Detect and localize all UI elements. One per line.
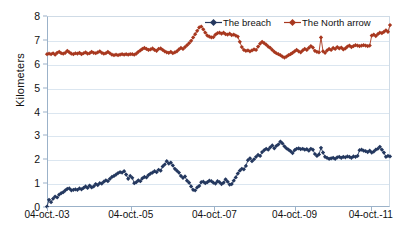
data-point-marker (193, 32, 197, 36)
legend-item-the-north-arrow[interactable]: The North arrow (284, 18, 371, 28)
x-tick-mark (214, 207, 215, 211)
data-point-marker (234, 175, 238, 179)
data-point-marker (124, 172, 128, 176)
y-tick-label: 2 (34, 154, 40, 165)
data-point-marker (191, 35, 195, 39)
y-tick-label: 3 (34, 130, 40, 141)
data-point-marker (319, 35, 323, 39)
x-tick-mark (371, 207, 372, 211)
series-the-breach (45, 139, 392, 208)
data-point-marker (238, 40, 242, 44)
data-point-marker (388, 23, 392, 27)
legend-label: The North arrow (302, 18, 371, 28)
legend-label: The breach (223, 18, 271, 28)
y-tick-label: 7 (34, 35, 40, 46)
y-axis-ticks: 012345678 (0, 0, 47, 238)
legend-item-the-breach[interactable]: The breach (205, 18, 271, 28)
x-tick-mark (131, 207, 132, 211)
series-line (47, 142, 390, 207)
x-tick-mark (47, 207, 48, 211)
legend-marker-icon (284, 18, 301, 27)
chart-container: Kilometers 012345678 04-oct.-0304-oct.-0… (0, 0, 407, 238)
data-point-marker (321, 150, 325, 154)
data-point-marker (195, 29, 199, 33)
legend-marker-icon (205, 18, 222, 27)
chart-legend: The breach The North arrow (203, 17, 373, 29)
y-tick-label: 1 (34, 178, 40, 189)
data-point-marker (244, 164, 248, 168)
data-series-layer (47, 16, 390, 207)
data-point-marker (232, 179, 236, 183)
y-tick-label: 4 (34, 106, 40, 117)
y-tick-label: 6 (34, 59, 40, 70)
data-point-marker (319, 146, 323, 150)
data-point-marker (189, 184, 193, 188)
y-tick-label: 8 (34, 11, 40, 22)
x-tick-mark (295, 207, 296, 211)
y-tick-label: 5 (34, 82, 40, 93)
